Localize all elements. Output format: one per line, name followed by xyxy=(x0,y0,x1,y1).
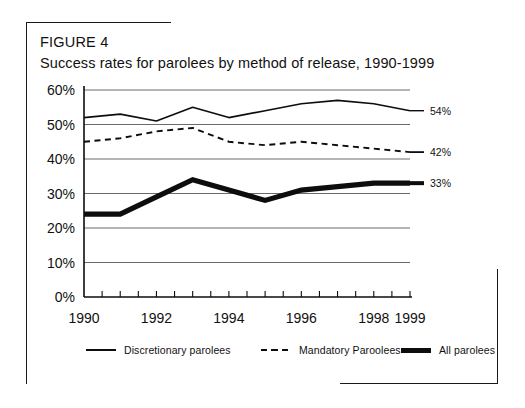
x-tick-label-1999: 1999 xyxy=(394,310,425,326)
y-axis-labels-group: 0%10%20%30%40%50%60% xyxy=(47,84,75,305)
y-tick-label-50: 50% xyxy=(47,117,75,133)
y-tick-label-40: 40% xyxy=(47,151,75,167)
legend-label-all: All parolees xyxy=(439,344,495,356)
y-tick-label-30: 30% xyxy=(47,186,75,202)
figure-frame: FIGURE 4 Success rates for parolees by m… xyxy=(26,22,498,384)
legend-label-discretionary: Discretionary parolees xyxy=(124,344,231,356)
y-tick-label-0: 0% xyxy=(55,289,75,305)
x-tick-label-1994: 1994 xyxy=(213,310,244,326)
x-tick-label-1990: 1990 xyxy=(68,310,99,326)
figure-label: FIGURE 4 xyxy=(40,34,108,50)
x-tick-label-1998: 1998 xyxy=(358,310,389,326)
end-label-mandatory-paroolees: 42% xyxy=(430,146,451,158)
legend-line-icon-all xyxy=(401,344,431,356)
frame-bottom-rule xyxy=(340,383,498,384)
chart-plot-area: 0%10%20%30%40%50%60% 1990199219941996199… xyxy=(26,84,498,336)
legend-item-all: All parolees xyxy=(401,344,495,356)
legend-label-mandatory: Mandatory Paroolees xyxy=(299,344,401,356)
series-line-discretionary-parolees xyxy=(84,100,410,121)
series-end-labels-group: 54%42%33% xyxy=(410,105,451,189)
x-tickmarks-group xyxy=(102,291,410,297)
legend-line-icon-discretionary xyxy=(86,344,116,356)
x-tick-label-1992: 1992 xyxy=(141,310,172,326)
series-line-mandatory-paroolees xyxy=(84,128,410,152)
chart-legend: Discretionary parolees Mandatory Paroole… xyxy=(26,344,498,366)
x-axis-labels-group: 199019921994199619981999 xyxy=(68,310,425,326)
legend-item-discretionary: Discretionary parolees xyxy=(86,344,231,356)
frame-top-rule xyxy=(26,22,171,23)
end-label-all-parolees: 33% xyxy=(430,177,451,189)
y-tick-label-20: 20% xyxy=(47,220,75,236)
end-label-discretionary-parolees: 54% xyxy=(430,105,451,117)
legend-line-icon-mandatory xyxy=(261,344,291,356)
y-tick-label-10: 10% xyxy=(47,255,75,271)
axes-group xyxy=(84,86,412,297)
legend-item-mandatory: Mandatory Paroolees xyxy=(261,344,401,356)
line-chart-svg: 0%10%20%30%40%50%60% 1990199219941996199… xyxy=(26,84,498,336)
y-tick-label-60: 60% xyxy=(47,84,75,98)
series-line-all-parolees xyxy=(84,180,410,215)
data-series-group xyxy=(84,100,410,214)
figure-title: Success rates for parolees by method of … xyxy=(40,55,434,71)
x-tick-label-1996: 1996 xyxy=(286,310,317,326)
